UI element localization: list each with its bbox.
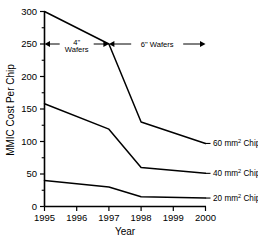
y-tick-label: 50	[26, 168, 37, 179]
y-tick-label: 0	[32, 201, 37, 212]
x-tick-label: 1995	[34, 212, 55, 223]
series-label-tail: Chip	[241, 139, 258, 148]
mmic-cost-chart: 050100150200250300 199519961997199819992…	[0, 0, 258, 240]
series-line	[45, 104, 206, 174]
y-tick-label: 200	[21, 71, 37, 82]
series-label-tail: Chip	[241, 169, 258, 178]
annotation-arrowhead-right	[200, 41, 206, 47]
series-line	[45, 12, 206, 144]
annotation-line1: 6" Wafers	[141, 40, 174, 49]
y-axis-title: MMIC Cost Per Chip	[5, 64, 16, 156]
y-tick-label: 250	[21, 38, 37, 49]
x-tick-label: 1999	[163, 212, 184, 223]
axes	[45, 11, 207, 207]
x-tick-label: 1998	[131, 212, 152, 223]
wafer-annotation: 4"Wafers	[45, 38, 109, 55]
series-label: 60 mm2 Chip	[213, 138, 258, 148]
series-labels: 60 mm2 Chip40 mm2 Chip20 mm2 Chip	[206, 138, 259, 203]
wafer-span-annotations: 4"Wafers6" Wafers	[45, 38, 206, 55]
series-label-tail: Chip	[241, 194, 258, 203]
y-axis-tick-labels: 050100150200250300	[21, 6, 37, 212]
x-tick-label: 1997	[98, 212, 119, 223]
x-axis-title: Year	[115, 226, 136, 237]
x-tick-label: 1996	[66, 212, 87, 223]
y-tick-label: 300	[21, 6, 37, 17]
chart-canvas: 050100150200250300 199519961997199819992…	[0, 0, 258, 240]
series-label: 20 mm2 Chip	[213, 193, 258, 203]
x-axis-tick-labels: 199519961997199819992000	[34, 212, 216, 223]
x-tick-label: 2000	[195, 212, 216, 223]
y-tick-label: 100	[21, 136, 37, 147]
series-lines	[45, 12, 206, 199]
series-label: 40 mm2 Chip	[213, 168, 258, 178]
annotation-arrowhead-left	[45, 41, 51, 47]
wafer-annotation: 6" Wafers	[109, 40, 206, 49]
y-tick-label: 150	[21, 103, 37, 114]
annotation-line2: Wafers	[65, 45, 89, 54]
series-line	[45, 181, 206, 199]
